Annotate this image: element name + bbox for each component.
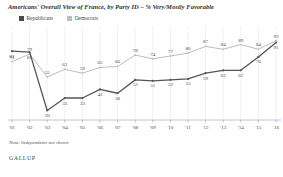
data-point-label: 66 [115, 59, 121, 64]
x-axis-tick-label: '13 [220, 125, 226, 130]
data-point-label: 84 [221, 42, 227, 47]
chart-container: Americans' Overall View of France, by Pa… [0, 0, 283, 177]
x-axis-tick-label: '14 [238, 125, 244, 130]
x-axis-tick-label: '10 [167, 125, 173, 130]
data-point-label: 79 [27, 47, 33, 52]
data-point-label: 81 [27, 55, 33, 60]
data-point-label: 63 [62, 62, 68, 67]
x-axis-tick-label: '01 [9, 125, 15, 130]
x-axis-tick-label: '07 [115, 125, 121, 130]
x-axis-tick-label: '11 [185, 125, 191, 130]
x-axis-tick-label: '12 [203, 125, 209, 130]
x-axis-tick-label: '02 [27, 125, 33, 130]
series-labels-democrats: 71795563596566787477808784898493 [10, 34, 280, 75]
x-axis-tick-label: '16 [273, 125, 279, 130]
data-point-label: 53 [186, 81, 192, 86]
x-axis-tick-label: '09 [150, 125, 156, 130]
data-point-label: 93 [274, 34, 280, 39]
data-point-label: 38 [115, 96, 121, 101]
data-point-label: 74 [150, 52, 156, 57]
data-point-label: 91 [274, 45, 280, 50]
data-point-label: 33 [80, 101, 86, 106]
data-point-label: 80 [186, 46, 192, 51]
data-point-label: 59 [203, 76, 209, 81]
chart-gridlines [12, 26, 276, 120]
chart-note: Note: Independents not shown [9, 140, 68, 145]
data-point-label: 82 [10, 54, 16, 59]
series-line-republicans [11, 41, 277, 111]
data-point-label: 52 [168, 82, 174, 87]
data-point-label: 89 [238, 38, 244, 43]
series-line-democrats [11, 40, 277, 78]
data-point-label: 51 [150, 83, 156, 88]
x-axis-tick-label: '03 [44, 125, 50, 130]
chart-x-axis-ticks [12, 120, 276, 123]
data-point-label: 20 [45, 113, 51, 118]
data-point-label: 76 [256, 59, 262, 64]
source-logo: GALLUP [9, 155, 36, 161]
data-point-label: 59 [80, 66, 86, 71]
data-point-label: 62 [238, 73, 244, 78]
chart-x-axis-labels: '01'02'03'04'05'06'07'08'09'10'11'12'13'… [9, 125, 279, 130]
x-axis-tick-label: '04 [62, 125, 68, 130]
data-point-label: 78 [133, 48, 139, 53]
data-point-label: 55 [45, 70, 51, 75]
series-labels-republicans: 82812033334238525152535962627691 [10, 45, 280, 118]
data-point-label: 77 [168, 49, 174, 54]
data-point-label: 62 [221, 73, 227, 78]
line-chart-plot: 71795563596566787477808784898493 8281203… [0, 0, 283, 177]
x-axis-tick-label: '08 [132, 125, 138, 130]
data-point-label: 84 [256, 42, 262, 47]
data-point-label: 52 [133, 82, 139, 87]
data-point-label: 42 [98, 92, 104, 97]
x-axis-tick-label: '05 [79, 125, 85, 130]
x-axis-tick-label: '15 [255, 125, 261, 130]
data-point-label: 33 [62, 101, 68, 106]
data-point-label: 65 [98, 60, 104, 65]
x-axis-tick-label: '06 [97, 125, 103, 130]
data-point-label: 87 [203, 39, 209, 44]
